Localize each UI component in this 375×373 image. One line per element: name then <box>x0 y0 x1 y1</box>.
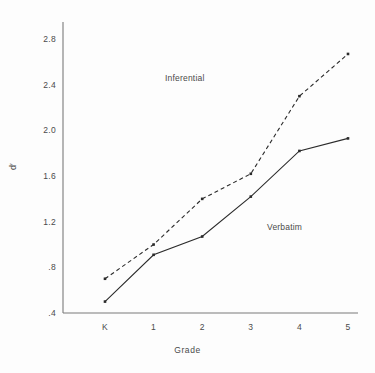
x-axis-tick-label: 4 <box>289 322 309 332</box>
y-axis-tick-label: 2.4 <box>30 80 56 90</box>
data-point-marker <box>347 137 350 140</box>
x-axis-title: Grade <box>0 345 375 355</box>
data-point-marker <box>201 198 204 201</box>
data-point-marker <box>250 172 253 175</box>
y-axis-tick-label: .4 <box>30 308 56 318</box>
series-annotation-verbatim: Verbatim <box>267 222 302 232</box>
chart-figure: .4.81.21.62.02.42.8 K12345 d′ Grade Infe… <box>0 0 375 373</box>
y-axis-title: d′ <box>8 163 18 170</box>
series-markers-inferential <box>104 53 350 280</box>
y-axis-tick-label: 2.8 <box>30 34 56 44</box>
data-point-marker <box>298 150 301 153</box>
line-chart-plot <box>0 0 375 373</box>
x-axis-tick-label: K <box>95 322 115 332</box>
x-axis-tick-label: 2 <box>192 322 212 332</box>
series-markers-verbatim <box>104 137 350 303</box>
data-point-marker <box>347 53 350 56</box>
data-point-marker <box>250 195 253 198</box>
y-axis-tick-label: 1.2 <box>30 217 56 227</box>
x-axis-tick-label: 1 <box>144 322 164 332</box>
y-axis-tick-label: .8 <box>30 262 56 272</box>
data-point-marker <box>201 235 204 238</box>
y-axis-tick-label: 1.6 <box>30 171 56 181</box>
data-point-marker <box>104 300 107 303</box>
y-axis-tick-label: 2.0 <box>30 125 56 135</box>
data-point-marker <box>152 254 155 257</box>
x-axis-tick-label: 3 <box>241 322 261 332</box>
series-line-verbatim <box>105 138 348 301</box>
data-point-marker <box>152 243 155 246</box>
x-axis-tick-label: 5 <box>338 322 358 332</box>
series-line-inferential <box>105 54 348 279</box>
data-point-marker <box>298 95 301 98</box>
data-point-marker <box>104 277 107 280</box>
series-annotation-inferential: Inferential <box>165 73 205 83</box>
